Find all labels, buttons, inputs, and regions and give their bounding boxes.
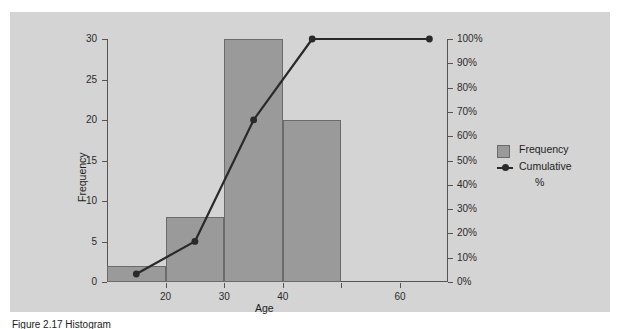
y-axis-tick-label: 25 bbox=[65, 75, 97, 85]
cumulative-markers bbox=[133, 36, 433, 278]
secondary-y-axis-tick-label: 40% bbox=[457, 180, 477, 190]
secondary-y-axis-tick-label: 80% bbox=[457, 83, 477, 93]
secondary-y-axis-tick bbox=[448, 112, 453, 113]
secondary-y-axis-tick bbox=[448, 136, 453, 137]
cumulative-line-series bbox=[107, 39, 447, 282]
secondary-y-axis-tick bbox=[448, 209, 453, 210]
x-axis-tick-label: 30 bbox=[209, 292, 239, 302]
y-axis-tick bbox=[102, 120, 107, 121]
chart-panel: 051015202530 20304060 0%10%20%30%40%50%6… bbox=[10, 12, 610, 312]
x-axis-tick-label: 40 bbox=[268, 292, 298, 302]
y-axis-tick-label: 20 bbox=[65, 115, 97, 125]
secondary-y-axis-tick-label: 20% bbox=[457, 228, 477, 238]
plot-area: 051015202530 20304060 0%10%20%30%40%50%6… bbox=[107, 39, 447, 282]
y-axis-tick bbox=[102, 80, 107, 81]
secondary-y-axis-tick-label: 100% bbox=[457, 34, 483, 44]
chart-legend: Frequency Cumulative % bbox=[497, 143, 602, 190]
secondary-y-axis-tick bbox=[448, 88, 453, 89]
x-axis-tick bbox=[341, 283, 342, 288]
secondary-y-axis-tick bbox=[448, 258, 453, 259]
figure-caption: Figure 2.17 Histogram bbox=[12, 319, 111, 329]
legend-item-cumulative[interactable]: Cumulative % bbox=[497, 160, 602, 190]
secondary-y-axis-tick bbox=[448, 185, 453, 186]
y-axis-title: Frequency bbox=[76, 152, 88, 202]
y-axis-tick bbox=[102, 161, 107, 162]
x-axis-tick bbox=[224, 283, 225, 288]
secondary-y-axis-tick-label: 0% bbox=[457, 277, 471, 287]
y-axis-tick-label: 5 bbox=[65, 237, 97, 247]
legend-item-frequency[interactable]: Frequency bbox=[497, 143, 602, 160]
cumulative-line bbox=[136, 39, 429, 274]
cumulative-marker bbox=[250, 117, 257, 124]
y-axis-tick-label: 0 bbox=[65, 277, 97, 287]
x-axis-tick-label: 60 bbox=[385, 292, 415, 302]
cumulative-marker bbox=[309, 36, 316, 43]
secondary-y-axis-tick-label: 60% bbox=[457, 131, 477, 141]
secondary-y-axis-tick bbox=[448, 39, 453, 40]
x-axis-tick bbox=[166, 283, 167, 288]
secondary-y-axis-tick bbox=[448, 233, 453, 234]
secondary-y-axis-tick-label: 50% bbox=[457, 156, 477, 166]
y-axis-tick bbox=[102, 39, 107, 40]
x-axis-tick bbox=[283, 283, 284, 288]
cumulative-marker bbox=[133, 271, 140, 278]
secondary-y-axis-tick-label: 10% bbox=[457, 253, 477, 263]
x-axis-title: Age bbox=[255, 302, 274, 314]
secondary-y-axis-tick-label: 90% bbox=[457, 58, 477, 68]
legend-label-cumulative-percent: % bbox=[535, 176, 544, 188]
cumulative-marker bbox=[426, 36, 433, 43]
figure-container: 051015202530 20304060 0%10%20%30%40%50%6… bbox=[0, 0, 620, 329]
secondary-y-axis-tick-label: 30% bbox=[457, 204, 477, 214]
y-axis-tick bbox=[102, 242, 107, 243]
legend-dot-icon bbox=[502, 164, 509, 171]
secondary-y-axis-tick bbox=[448, 161, 453, 162]
y-axis-tick bbox=[102, 201, 107, 202]
cumulative-marker bbox=[192, 238, 199, 245]
y-axis-tick-label: 30 bbox=[65, 34, 97, 44]
secondary-y-axis-tick bbox=[448, 63, 453, 64]
secondary-y-axis-tick bbox=[448, 282, 453, 283]
x-axis-tick-label: 20 bbox=[151, 292, 181, 302]
y-axis-tick bbox=[102, 282, 107, 283]
legend-label-cumulative: Cumulative bbox=[519, 160, 572, 172]
legend-label-frequency: Frequency bbox=[519, 143, 569, 155]
secondary-y-axis-tick-label: 70% bbox=[457, 107, 477, 117]
legend-swatch-icon bbox=[497, 145, 510, 158]
x-axis-tick bbox=[400, 283, 401, 288]
